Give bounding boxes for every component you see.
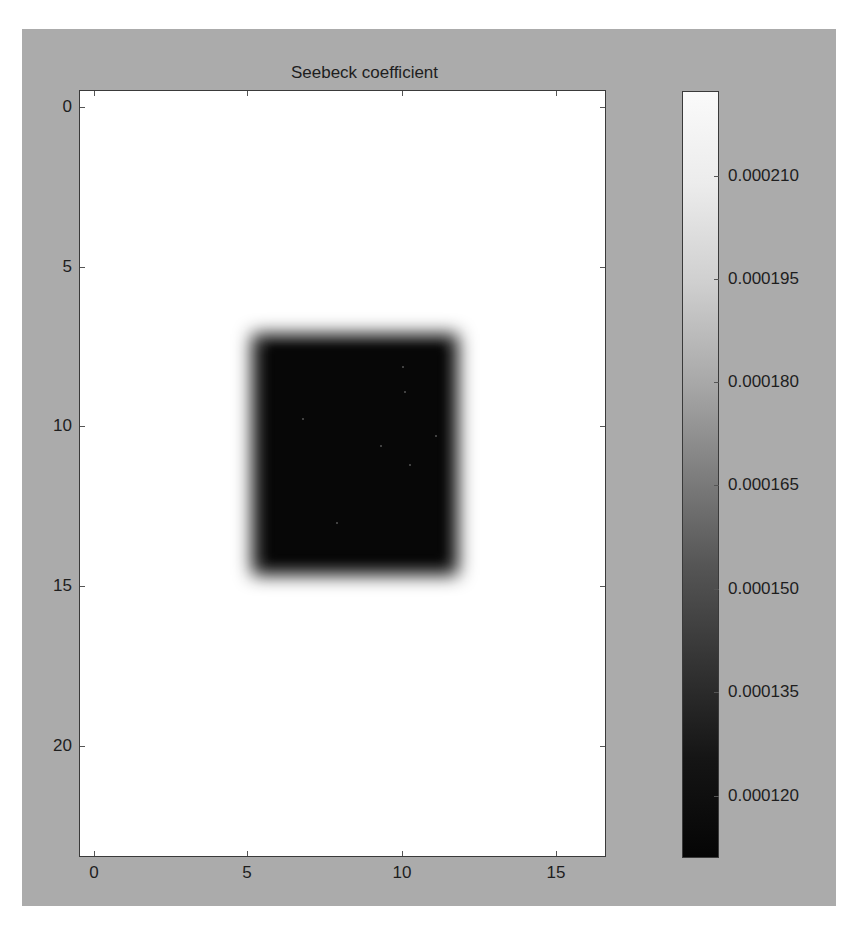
y-tick-left: [80, 746, 85, 747]
colorbar-label: 0.000120: [728, 786, 799, 806]
colorbar-label: 0.000180: [728, 372, 799, 392]
low-seebeck-region-core: [270, 347, 442, 559]
colorbar-tick: [714, 589, 719, 590]
x-tick-bottom: [247, 851, 248, 856]
y-tick-left: [80, 586, 85, 587]
x-tick-label: 15: [536, 863, 576, 883]
y-tick-left: [80, 107, 85, 108]
y-tick-right: [600, 426, 605, 427]
colorbar-tick: [714, 692, 719, 693]
y-tick-right: [600, 586, 605, 587]
y-tick-left: [80, 426, 85, 427]
y-tick-label: 0: [42, 97, 72, 117]
noise-speck: [402, 366, 404, 368]
noise-speck: [380, 445, 382, 447]
x-tick-bottom: [556, 851, 557, 856]
y-tick-label: 10: [42, 416, 72, 436]
y-tick-right: [600, 267, 605, 268]
x-tick-label: 10: [382, 863, 422, 883]
noise-speck: [302, 418, 304, 420]
colorbar-tick: [714, 485, 719, 486]
colorbar: [682, 91, 719, 858]
noise-speck: [409, 464, 411, 466]
y-tick-label: 20: [42, 736, 72, 756]
colorbar-tick: [714, 382, 719, 383]
colorbar-label: 0.000135: [728, 682, 799, 702]
figure-panel: Seebeck coefficient 0 5 10 15 20 0: [22, 29, 836, 906]
y-tick-right: [600, 746, 605, 747]
noise-speck: [336, 522, 338, 524]
x-tick-label: 5: [227, 863, 267, 883]
noise-speck: [404, 391, 406, 393]
heatmap-plot-area: [79, 90, 606, 857]
x-tick-top: [556, 91, 557, 96]
colorbar-tick: [714, 796, 719, 797]
x-tick-label: 0: [74, 863, 114, 883]
y-tick-right: [600, 107, 605, 108]
colorbar-label: 0.000210: [728, 166, 799, 186]
colorbar-label: 0.000165: [728, 475, 799, 495]
x-tick-bottom: [402, 851, 403, 856]
colorbar-tick: [714, 279, 719, 280]
chart-title: Seebeck coefficient: [101, 63, 628, 83]
colorbar-label: 0.000195: [728, 269, 799, 289]
y-tick-left: [80, 267, 85, 268]
x-tick-top: [247, 91, 248, 96]
x-tick-top: [402, 91, 403, 96]
colorbar-label: 0.000150: [728, 579, 799, 599]
y-tick-label: 5: [42, 257, 72, 277]
colorbar-tick: [714, 176, 719, 177]
x-tick-bottom: [94, 851, 95, 856]
x-tick-top: [94, 91, 95, 96]
noise-speck: [435, 435, 437, 437]
y-tick-label: 15: [42, 576, 72, 596]
